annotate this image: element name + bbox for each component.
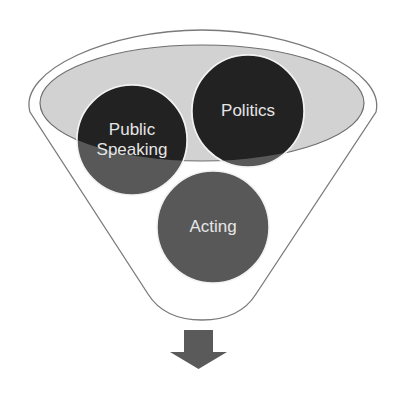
arrow-down-icon	[170, 330, 227, 369]
funnel-diagram	[0, 0, 399, 394]
circle-politics-rim-part	[192, 55, 304, 167]
circle-acting	[157, 171, 269, 283]
